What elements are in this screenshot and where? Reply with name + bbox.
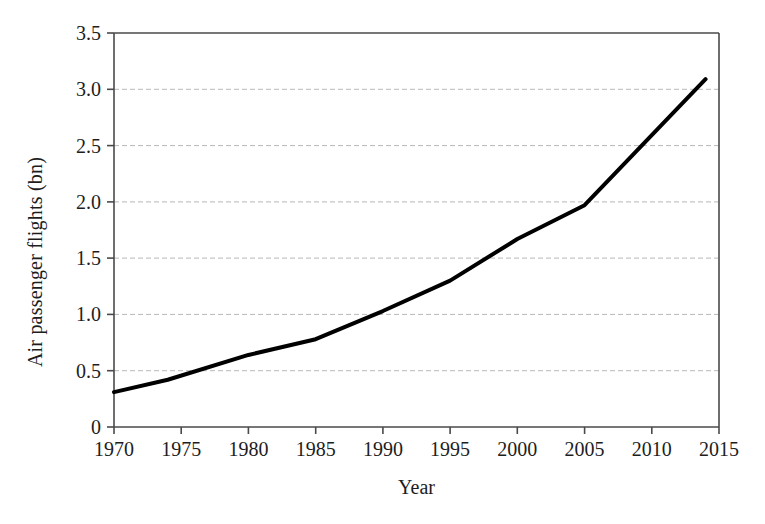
x-tick-label: 1975	[161, 438, 201, 460]
y-tick-label: 0	[91, 416, 101, 438]
x-tick-label: 2000	[497, 438, 537, 460]
x-tick-label: 2015	[699, 438, 739, 460]
y-tick-label: 0.5	[76, 360, 101, 382]
y-tick-label: 3.5	[76, 22, 101, 44]
chart-figure: 3.5 3.0 2.5 2.0 1.5 1.0 0.5 0 1970 1975	[0, 0, 765, 524]
x-tick-label: 1990	[363, 438, 403, 460]
x-tick-label: 1995	[430, 438, 470, 460]
line-chart-plot: 3.5 3.0 2.5 2.0 1.5 1.0 0.5 0 1970 1975	[0, 0, 765, 524]
x-tick-marks	[114, 427, 719, 434]
y-tick-marks	[107, 33, 114, 427]
x-tick-label: 1985	[296, 438, 336, 460]
y-tick-label: 2.5	[76, 135, 101, 157]
y-axis-title: Air passenger flights (bn)	[0, 0, 70, 524]
x-tick-label: 1970	[94, 438, 134, 460]
y-tick-label: 1.5	[76, 247, 101, 269]
y-tick-labels: 3.5 3.0 2.5 2.0 1.5 1.0 0.5 0	[76, 22, 101, 438]
x-tick-labels: 1970 1975 1980 1985 1990 1995 2000 2005 …	[94, 438, 739, 460]
y-tick-label: 3.0	[76, 78, 101, 100]
y-tick-label: 2.0	[76, 191, 101, 213]
x-tick-label: 1980	[228, 438, 268, 460]
data-line-air-passenger-flights	[114, 79, 706, 392]
x-tick-label: 2010	[632, 438, 672, 460]
x-tick-label: 2005	[565, 438, 605, 460]
y-tick-label: 1.0	[76, 303, 101, 325]
x-axis-title: Year	[114, 476, 719, 499]
gridlines	[114, 89, 719, 370]
